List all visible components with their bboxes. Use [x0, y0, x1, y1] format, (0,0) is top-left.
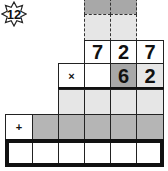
carry-cell[interactable] [110, 14, 137, 41]
partial-product-cell[interactable] [58, 89, 85, 115]
answer-row-frame [5, 139, 164, 167]
multiplicand-digit: 2 [110, 40, 137, 64]
partial-product-cell[interactable] [136, 114, 164, 140]
carry-cell[interactable] [84, 0, 111, 15]
partial-product-cell[interactable] [136, 89, 164, 115]
multiplier-digit: 6 [110, 63, 137, 89]
partial-product-cell[interactable] [32, 114, 59, 140]
multiplier-digit [84, 63, 111, 89]
partial-product-cell[interactable] [84, 114, 111, 140]
multiply-operator: × [58, 63, 85, 89]
partial-product-cell[interactable] [58, 114, 85, 140]
partial-product-cell[interactable] [84, 89, 111, 115]
carry-cell[interactable] [84, 14, 111, 41]
problem-number: 12 [1, 1, 27, 27]
partial-product-cell[interactable] [110, 89, 137, 115]
multiplier-digit: 2 [136, 63, 164, 89]
multiplicand-digit: 7 [136, 40, 164, 64]
partial-product-cell[interactable] [110, 114, 137, 140]
carry-cell[interactable] [110, 0, 137, 15]
multiplicand-digit: 7 [84, 40, 111, 64]
add-operator: + [5, 114, 33, 140]
